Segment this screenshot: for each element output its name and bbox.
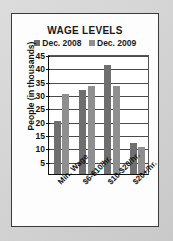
- y-tick-label: 25: [27, 104, 45, 114]
- y-tick-mark: [46, 69, 50, 70]
- legend-swatch-icon: [89, 40, 95, 46]
- y-tick-label: 20: [27, 118, 45, 128]
- bar: [88, 86, 95, 174]
- y-tick-mark: [46, 56, 50, 57]
- gridline: [49, 83, 148, 84]
- y-tick-label: 30: [27, 91, 45, 101]
- y-tick-label: 45: [27, 51, 45, 61]
- legend-entry: Dec. 2009: [89, 38, 137, 48]
- y-tick-mark: [46, 96, 50, 97]
- gridline: [49, 69, 148, 70]
- bar: [113, 86, 120, 174]
- screenshot-background: WAGE LEVELS Dec. 2008Dec. 2009 People (i…: [0, 0, 173, 241]
- legend-label: Dec. 2009: [97, 38, 136, 48]
- legend-label: Dec. 2008: [42, 38, 81, 48]
- y-tick-mark: [46, 123, 50, 124]
- chart-card: WAGE LEVELS Dec. 2008Dec. 2009 People (i…: [11, 13, 159, 227]
- y-tick-label: 35: [27, 78, 45, 88]
- y-tick-label: 40: [27, 64, 45, 74]
- y-tick-mark: [46, 83, 50, 84]
- y-tick-mark: [46, 149, 50, 150]
- y-tick-mark: [46, 109, 50, 110]
- y-tick-mark: [46, 163, 50, 164]
- legend-entry: Dec. 2008: [34, 38, 82, 48]
- bar: [54, 121, 61, 174]
- y-tick-label: 15: [27, 131, 45, 141]
- y-tick-label: 10: [27, 144, 45, 154]
- gridline: [49, 56, 148, 57]
- bar: [62, 94, 69, 174]
- y-tick-label: 5: [27, 158, 45, 168]
- y-tick-mark: [46, 136, 50, 137]
